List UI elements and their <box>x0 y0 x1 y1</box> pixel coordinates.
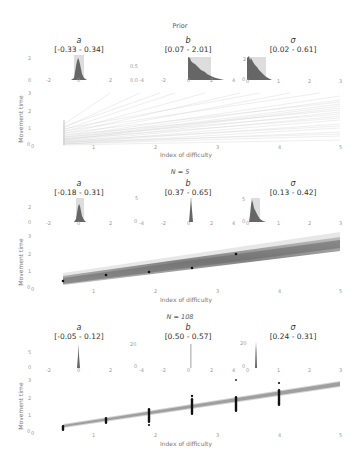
hist-sigma: 20 0 0 1 2 3 <box>240 340 342 373</box>
svg-text:4: 4 <box>278 288 281 294</box>
x-axis-label: Index of difficulty <box>160 151 213 159</box>
svg-text:0: 0 <box>31 430 34 436</box>
svg-text:2: 2 <box>28 55 31 61</box>
svg-text:2: 2 <box>28 251 31 257</box>
panel-title: N = 5 <box>171 168 190 176</box>
param-a-interval: [-0.18 - 0.31] <box>54 188 104 197</box>
svg-text:3: 3 <box>28 233 31 239</box>
y-axis-label: Movement time <box>17 382 24 430</box>
svg-text:1: 1 <box>277 367 280 373</box>
svg-text:3: 3 <box>339 367 342 373</box>
svg-text:0: 0 <box>28 77 31 83</box>
svg-text:0: 0 <box>242 218 245 224</box>
svg-text:2: 2 <box>28 108 31 114</box>
svg-text:0: 0 <box>27 428 30 434</box>
figure: Prior a [-0.33 - 0.34] b [0.07 - 2.01] σ… <box>0 0 360 468</box>
svg-text:2: 2 <box>109 77 112 83</box>
svg-text:0: 0 <box>187 77 190 83</box>
svg-text:3: 3 <box>339 78 342 84</box>
svg-text:0: 0 <box>77 367 80 373</box>
x-axis-label: Index of difficulty <box>160 296 213 304</box>
param-a-label: a <box>77 36 82 45</box>
svg-text:20: 20 <box>130 341 136 347</box>
y-axis-label: Movement time <box>17 95 24 143</box>
svg-text:5: 5 <box>339 432 342 438</box>
svg-text:4: 4 <box>232 367 235 373</box>
svg-text:1: 1 <box>28 268 31 274</box>
svg-text:-2: -2 <box>46 367 51 373</box>
param-sigma-interval: [0.24 - 0.31] <box>270 332 317 341</box>
n5-main-plot: 3 2 1 0 0 1 2 3 4 5 Index of difficulty … <box>17 232 342 304</box>
prior-main-plot: 3 2 1 0 0 1 2 3 4 5 Index of difficulty … <box>17 90 342 159</box>
svg-text:20: 20 <box>240 340 246 346</box>
x-axis-label: Index of difficulty <box>160 440 213 448</box>
svg-text:0: 0 <box>28 364 31 370</box>
svg-text:0: 0 <box>246 220 249 226</box>
svg-text:2: 2 <box>210 367 213 373</box>
n108-panel: N = 108 a [-0.05 - 0.12] b [0.50 - 0.57]… <box>17 313 342 448</box>
svg-text:0: 0 <box>187 220 190 226</box>
svg-text:3: 3 <box>216 432 219 438</box>
y-axis-label: Movement time <box>17 238 24 286</box>
svg-text:0: 0 <box>242 363 245 369</box>
svg-text:3: 3 <box>28 90 31 96</box>
svg-text:2: 2 <box>210 220 213 226</box>
panel-title: N = 108 <box>167 313 194 321</box>
param-b-label: b <box>185 323 190 332</box>
hist-b: 0.5 0.0 -4 -2 0 2 4 <box>130 57 235 83</box>
svg-text:1: 1 <box>28 412 31 418</box>
svg-text:2: 2 <box>154 144 157 150</box>
svg-text:1: 1 <box>92 432 95 438</box>
param-sigma-label: σ <box>290 179 296 188</box>
svg-text:0: 0 <box>28 219 31 225</box>
svg-text:0: 0 <box>31 143 34 149</box>
param-a-label: a <box>77 179 82 188</box>
svg-text:2: 2 <box>308 367 311 373</box>
param-a-interval: [-0.33 - 0.34] <box>54 45 104 54</box>
svg-text:5: 5 <box>135 195 138 201</box>
svg-text:2: 2 <box>154 432 157 438</box>
svg-text:0: 0 <box>187 367 190 373</box>
n5-panel: N = 5 a [-0.18 - 0.31] b [0.37 - 0.65] σ… <box>17 168 342 304</box>
svg-text:-2: -2 <box>161 220 166 226</box>
param-b-interval: [0.07 - 2.01] <box>165 45 212 54</box>
svg-text:5: 5 <box>339 144 342 150</box>
panel-title: Prior <box>173 22 188 30</box>
hist-a: 2 0 -2 0 2 <box>28 55 112 83</box>
svg-text:0: 0 <box>77 220 80 226</box>
svg-text:0: 0 <box>27 284 30 290</box>
svg-text:2: 2 <box>28 395 31 401</box>
svg-text:3: 3 <box>28 377 31 383</box>
svg-text:2: 2 <box>109 220 112 226</box>
hist-sigma: 5 0 0 1 2 3 <box>242 196 342 226</box>
svg-text:4: 4 <box>232 77 235 83</box>
svg-text:0: 0 <box>27 141 30 147</box>
svg-text:2: 2 <box>308 220 311 226</box>
svg-text:1: 1 <box>28 125 31 131</box>
svg-text:0: 0 <box>246 367 249 373</box>
hist-a: 5 0 -2 0 2 <box>28 344 112 373</box>
svg-text:-2: -2 <box>161 367 166 373</box>
svg-text:-4: -4 <box>139 367 144 373</box>
param-a-interval: [-0.05 - 0.12] <box>54 332 104 341</box>
svg-text:0: 0 <box>31 286 34 292</box>
svg-text:0.5: 0.5 <box>130 63 138 69</box>
svg-text:-2: -2 <box>161 77 166 83</box>
svg-text:2: 2 <box>154 288 157 294</box>
svg-text:0: 0 <box>246 78 249 84</box>
svg-text:0: 0 <box>134 363 137 369</box>
svg-text:1: 1 <box>277 220 280 226</box>
svg-text:4: 4 <box>278 432 281 438</box>
svg-text:1: 1 <box>92 288 95 294</box>
param-sigma-interval: [0.02 - 0.61] <box>270 45 317 54</box>
svg-text:4: 4 <box>278 144 281 150</box>
svg-text:2: 2 <box>210 77 213 83</box>
svg-text:1: 1 <box>277 78 280 84</box>
hist-sigma: 2 0 0 1 2 3 <box>242 56 342 84</box>
svg-text:5: 5 <box>28 349 31 355</box>
svg-text:0: 0 <box>77 77 80 83</box>
svg-text:3: 3 <box>216 144 219 150</box>
hist-b: 20 0 -4 -2 0 2 4 <box>130 341 235 373</box>
prior-panel: Prior a [-0.33 - 0.34] b [0.07 - 2.01] σ… <box>17 22 342 159</box>
svg-text:5: 5 <box>339 288 342 294</box>
